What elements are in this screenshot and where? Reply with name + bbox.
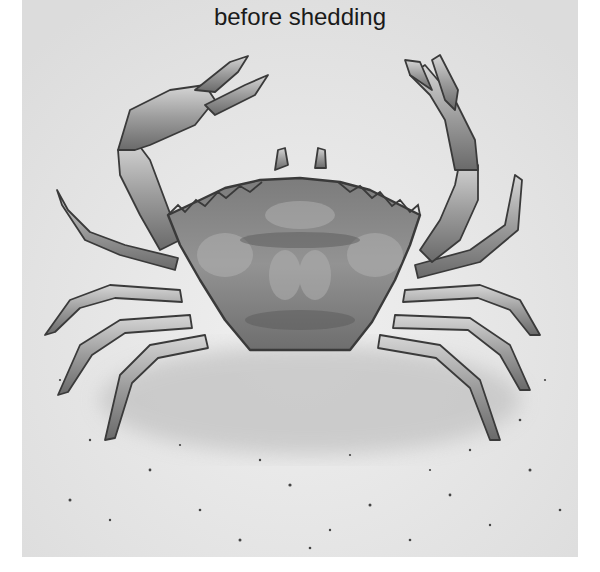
- crab-drawing: [22, 0, 578, 557]
- crab-illustration: [22, 0, 578, 557]
- illustration-caption: before shedding: [0, 0, 600, 34]
